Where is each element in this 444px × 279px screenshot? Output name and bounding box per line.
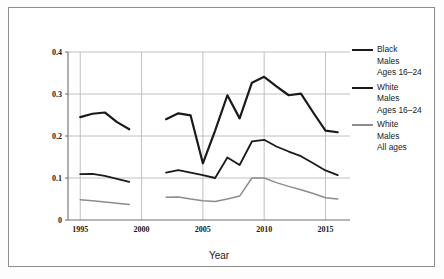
legend-label: WhiteMalesAll ages — [377, 119, 440, 154]
x-tick-label: 2000 — [134, 225, 150, 234]
legend-label-line-2: All ages — [377, 142, 440, 154]
legend-swatch-line-icon — [352, 124, 373, 126]
legend-label: WhiteMalesAges 16–24 — [377, 82, 440, 117]
y-tick-label: 0.1 — [52, 174, 62, 183]
legend-entry-1: WhiteMalesAges 16–24 — [352, 82, 440, 117]
legend-swatch-line-icon — [352, 87, 373, 89]
series-line-1-segment-1 — [166, 140, 338, 178]
series-line-2-segment-0 — [80, 200, 129, 205]
legend-label-line-0: Black — [377, 44, 440, 56]
x-tick-label: 2010 — [256, 225, 272, 234]
data-series — [80, 77, 337, 205]
legend-label-line-2: Ages 16–24 — [377, 105, 440, 117]
y-tick-label: 0.3 — [52, 90, 62, 99]
legend-label-line-0: White — [377, 119, 440, 131]
series-line-0-segment-1 — [166, 77, 338, 164]
gridlines — [68, 52, 350, 220]
x-tick-label: 2015 — [317, 225, 333, 234]
y-axis-tick-labels: 00.10.20.30.4 — [52, 48, 62, 225]
legend-label: BlackMalesAges 16–24 — [377, 44, 440, 79]
legend: BlackMalesAges 16–24WhiteMalesAges 16–24… — [352, 44, 440, 164]
x-axis-title: Year — [209, 250, 230, 261]
y-tick-label: 0.4 — [52, 48, 62, 57]
x-axis-tick-labels: 19952000200520102015 — [72, 225, 333, 234]
legend-label-line-0: White — [377, 82, 440, 94]
legend-label-line-1: Males — [377, 131, 440, 143]
y-tick-label: 0 — [58, 216, 62, 225]
series-line-2-segment-1 — [166, 178, 338, 202]
legend-swatch-line-icon — [352, 49, 373, 51]
x-tick-label: 1995 — [72, 225, 88, 234]
figure-root: 00.10.20.30.4 19952000200520102015 Year … — [0, 0, 444, 279]
series-line-0-segment-0 — [80, 112, 129, 129]
x-tick-label: 2005 — [195, 225, 211, 234]
legend-label-line-2: Ages 16–24 — [377, 67, 440, 79]
legend-entry-2: WhiteMalesAll ages — [352, 119, 440, 154]
legend-entry-0: BlackMalesAges 16–24 — [352, 44, 440, 79]
legend-label-line-1: Males — [377, 93, 440, 105]
y-tick-label: 0.2 — [52, 132, 62, 141]
legend-label-line-1: Males — [377, 56, 440, 68]
